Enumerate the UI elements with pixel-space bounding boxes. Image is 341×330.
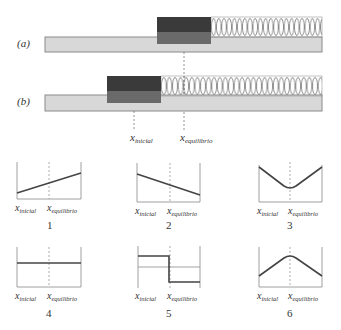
panel-a: (a) — [17, 17, 322, 52]
svg-text:xequilibrio: xequilibrio — [46, 202, 78, 214]
x-equilibrium-label: xequilibrio — [179, 131, 213, 145]
graph-5-curve — [138, 256, 200, 282]
panel-a-label: (a) — [17, 37, 30, 50]
surface-b — [45, 95, 322, 111]
graph-2-number: 2 — [166, 219, 172, 231]
svg-text:xequilibrio: xequilibrio — [166, 205, 198, 217]
spring-a — [211, 17, 322, 37]
graph-5: xinicial xequilibrio 5 — [134, 246, 200, 319]
graph-2-curve — [137, 174, 200, 195]
graph-6-number: 6 — [287, 307, 293, 319]
block-a-bottom — [157, 32, 211, 44]
graph-3: xinicial xequilibrio 3 — [256, 162, 322, 231]
panel-b-label: (b) — [17, 95, 30, 108]
svg-text:xequilibrio: xequilibrio — [46, 290, 78, 302]
svg-text:xequilibrio: xequilibrio — [166, 290, 198, 302]
graph-1: xinicial xequilibrio 1 — [14, 162, 81, 231]
graph-2: xinicial xequilibrio 2 — [134, 163, 200, 231]
block-a-top — [157, 17, 211, 32]
svg-text:xinicial: xinicial — [14, 202, 36, 214]
graph-1-number: 1 — [47, 219, 53, 231]
svg-text:xinicial: xinicial — [134, 290, 156, 302]
svg-text:xinicial: xinicial — [134, 205, 156, 217]
graph-3-number: 3 — [287, 219, 293, 231]
x-initial-label: xinicial — [129, 131, 153, 145]
svg-text:xinicial: xinicial — [14, 290, 36, 302]
block-b-bottom — [107, 91, 161, 103]
svg-text:xinicial: xinicial — [256, 290, 278, 302]
spring-block-diagram: (a) (b) xinicial xequilibrio xinicial xe… — [0, 0, 341, 330]
block-b-top — [107, 76, 161, 91]
graph-5-number: 5 — [166, 307, 172, 319]
graph-4: xinicial xequilibrio 4 — [14, 247, 81, 319]
graph-3-curve — [259, 167, 322, 188]
svg-text:xequilibrio: xequilibrio — [287, 205, 319, 217]
graph-4-number: 4 — [46, 307, 52, 319]
graph-6-curve — [259, 256, 322, 276]
svg-text:xequilibrio: xequilibrio — [287, 290, 319, 302]
svg-text:xinicial: xinicial — [256, 205, 278, 217]
spring-b — [161, 76, 322, 96]
panel-b: (b) xinicial xequilibrio — [17, 76, 322, 145]
graph-6: xinicial xequilibrio 6 — [256, 247, 322, 319]
